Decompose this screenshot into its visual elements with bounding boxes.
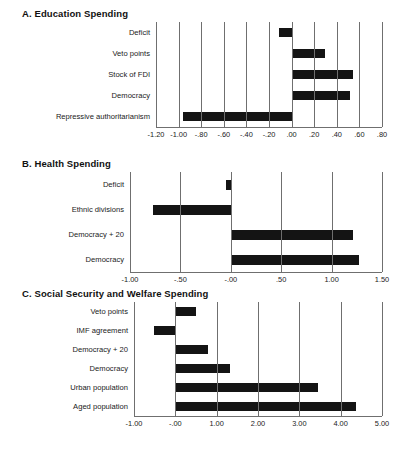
- bar-deficit: [226, 180, 231, 190]
- bar-democracy-20: [231, 230, 353, 240]
- bar-category-label: Democracy: [22, 256, 130, 264]
- bar-democracy: [292, 91, 351, 100]
- x-tick-label: 1.00: [324, 275, 338, 284]
- x-tick-label: -1.00: [122, 275, 139, 284]
- x-tick-label: .80: [377, 130, 387, 139]
- x-tick-label: .60: [354, 130, 364, 139]
- bar-category-label: Democracy + 20: [22, 346, 134, 354]
- bar-track: [156, 106, 382, 127]
- bar-democracy-20: [175, 345, 208, 354]
- bar-category-label: Veto points: [22, 50, 156, 58]
- x-tick-label: -1.00: [170, 130, 187, 139]
- bar-veto-points: [292, 49, 326, 58]
- gridline: [382, 22, 383, 127]
- gridline: [382, 302, 383, 416]
- x-tick-label: -.00: [169, 419, 182, 428]
- bar-track: [134, 321, 382, 340]
- bar-row: Aged population: [22, 397, 382, 416]
- x-axis-ticklabels-c: -1.00-.001.002.003.004.005.00: [134, 416, 382, 430]
- bar-track: [134, 359, 382, 378]
- bar-category-label: IMF agreement: [22, 327, 134, 335]
- bar-category-label: Veto points: [22, 308, 134, 316]
- x-tick-label: -.60: [217, 130, 230, 139]
- bar-category-label: Aged population: [22, 403, 134, 411]
- bar-category-label: Ethnic divisions: [22, 206, 130, 214]
- plot-wrap-b: DeficitEthnic divisionsDemocracy + 20Dem…: [22, 172, 382, 286]
- gridline: [382, 172, 383, 272]
- bar-row: Stock of FDI: [22, 64, 382, 85]
- bar-category-label: Urban population: [22, 384, 134, 392]
- x-tick-label: -.40: [240, 130, 253, 139]
- bar-deficit: [279, 28, 291, 37]
- bar-track: [130, 247, 382, 272]
- figure-root: A. Education Spending DeficitVeto points…: [0, 0, 393, 456]
- plot-rows-b: DeficitEthnic divisionsDemocracy + 20Dem…: [22, 172, 382, 272]
- x-tick-label: 2.00: [251, 419, 265, 428]
- bar-row: Ethnic divisions: [22, 197, 382, 222]
- panel-title-a: A. Education Spending: [22, 8, 393, 19]
- bar-track: [130, 197, 382, 222]
- bar-category-label: Stock of FDI: [22, 71, 156, 79]
- bar-urban-population: [175, 383, 318, 392]
- x-tick-label: -1.20: [148, 130, 165, 139]
- chart-panel-education: A. Education Spending DeficitVeto points…: [0, 8, 393, 141]
- x-tick-label: 4.00: [333, 419, 347, 428]
- panel-title-c: C. Social Security and Welfare Spending: [22, 288, 393, 299]
- bar-category-label: Democracy: [22, 92, 156, 100]
- bar-category-label: Democracy + 20: [22, 231, 130, 239]
- bar-ethnic-divisions: [153, 205, 231, 215]
- plot-rows-c: Veto pointsIMF agreementDemocracy + 20De…: [22, 302, 382, 416]
- bar-category-label: Democracy: [22, 365, 134, 373]
- x-tick-label: 1.50: [375, 275, 389, 284]
- plot-wrap-a: DeficitVeto pointsStock of FDIDemocracyR…: [22, 22, 382, 141]
- x-axis-ticklabels-b: -1.00-.50-.00.501.001.50: [130, 272, 382, 286]
- x-tick-label: .20: [309, 130, 319, 139]
- x-tick-label: -.00: [224, 275, 237, 284]
- chart-panel-social-security: C. Social Security and Welfare Spending …: [0, 288, 393, 430]
- x-tick-label: .50: [276, 275, 286, 284]
- bar-track: [134, 397, 382, 416]
- bar-veto-points: [175, 307, 195, 316]
- bar-row: IMF agreement: [22, 321, 382, 340]
- x-axis-ticklabels-a: -1.20-1.00-.80-.60-.40-.20.00.20.40.60.8…: [156, 127, 382, 141]
- bar-track: [134, 378, 382, 397]
- bar-category-label: Deficit: [22, 29, 156, 37]
- panel-title-b: B. Health Spending: [22, 158, 393, 169]
- bar-row: Deficit: [22, 172, 382, 197]
- bar-row: Democracy: [22, 85, 382, 106]
- x-tick-label: 5.00: [375, 419, 389, 428]
- bar-category-label: Deficit: [22, 181, 130, 189]
- bar-row: Democracy: [22, 359, 382, 378]
- bar-track: [156, 64, 382, 85]
- x-tick-label: -.20: [263, 130, 276, 139]
- bar-track: [156, 85, 382, 106]
- bar-row: Veto points: [22, 43, 382, 64]
- bar-row: Veto points: [22, 302, 382, 321]
- x-tick-label: 3.00: [292, 419, 306, 428]
- x-tick-label: 1.00: [209, 419, 223, 428]
- bar-track: [134, 302, 382, 321]
- bar-track: [156, 43, 382, 64]
- bar-row: Democracy: [22, 247, 382, 272]
- bar-imf-agreement: [154, 326, 175, 335]
- x-tick-label: .40: [332, 130, 342, 139]
- bar-row: Urban population: [22, 378, 382, 397]
- bar-track: [130, 172, 382, 197]
- bar-row: Deficit: [22, 22, 382, 43]
- plot-wrap-c: Veto pointsIMF agreementDemocracy + 20De…: [22, 302, 382, 430]
- chart-panel-health: B. Health Spending DeficitEthnic divisio…: [0, 158, 393, 286]
- bar-track: [130, 222, 382, 247]
- bar-democracy: [231, 255, 359, 265]
- x-tick-label: .00: [286, 130, 296, 139]
- plot-rows-a: DeficitVeto pointsStock of FDIDemocracyR…: [22, 22, 382, 127]
- bar-track: [156, 22, 382, 43]
- bar-category-label: Repressive authoritarianism: [22, 113, 156, 121]
- bar-stock-of-fdi: [292, 70, 353, 79]
- bar-democracy: [175, 364, 230, 373]
- x-tick-label: -1.00: [126, 419, 143, 428]
- bar-aged-population: [175, 402, 355, 411]
- bar-repressive-authoritarianism: [183, 112, 291, 121]
- bar-row: Democracy + 20: [22, 340, 382, 359]
- x-tick-label: -.50: [174, 275, 187, 284]
- bar-track: [134, 340, 382, 359]
